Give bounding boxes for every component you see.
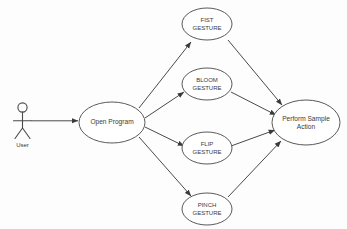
use-case-pinch-gesture-label-line1: PINCH [198,202,217,208]
use-case-open-program-label: Open Program [90,118,134,126]
actor-right-leg-icon [23,128,31,139]
use-case-flip-gesture-shape [182,132,232,164]
use-case-perform-sample-action-label-line2: Action [297,123,316,130]
use-case-fist-gesture-label-line1: FIST [201,17,214,23]
assoc-open-program-to-bloom[interactable] [145,92,184,118]
actor-left-leg-icon [15,128,23,139]
use-case-pinch-gesture-shape [182,193,232,225]
actor-user-label: User [16,142,29,148]
use-case-pinch-gesture[interactable]: PINCH GESTURE [182,193,232,225]
diagram-canvas: User Open Program FIST GESTURE [0,0,347,229]
assoc-bloom-to-perform[interactable] [231,92,276,115]
assoc-pinch-to-perform[interactable] [228,141,281,197]
use-case-flip-gesture-label-line1: FLIP [201,141,214,147]
assoc-open-program-to-flip[interactable] [145,127,184,146]
assoc-fist-to-perform[interactable] [228,40,282,105]
use-case-flip-gesture-label-line2: GESTURE [192,149,221,155]
use-case-fist-gesture-shape [182,8,232,40]
use-case-flip-gesture[interactable]: FLIP GESTURE [182,132,232,164]
use-case-bloom-gesture-shape [182,68,232,100]
use-case-fist-gesture-label-line2: GESTURE [192,25,221,31]
use-case-bloom-gesture-label-line2: GESTURE [192,85,221,91]
association-lines [32,40,283,197]
use-case-perform-sample-action[interactable]: Perform Sample Action [272,100,340,145]
assoc-flip-to-perform[interactable] [231,130,275,146]
use-case-perform-sample-action-label-line1: Perform Sample [282,115,330,123]
use-case-diagram: User Open Program FIST GESTURE [0,0,347,229]
use-case-fist-gesture[interactable]: FIST GESTURE [182,8,232,40]
use-case-pinch-gesture-label-line2: GESTURE [192,210,221,216]
assoc-open-program-to-fist[interactable] [139,42,191,108]
use-case-bloom-gesture[interactable]: BLOOM GESTURE [182,68,232,100]
actor-head-icon [18,103,27,112]
use-case-bloom-gesture-label-line1: BLOOM [196,77,218,83]
actor-user[interactable]: User [14,103,32,148]
use-case-open-program[interactable]: Open Program [79,102,145,143]
